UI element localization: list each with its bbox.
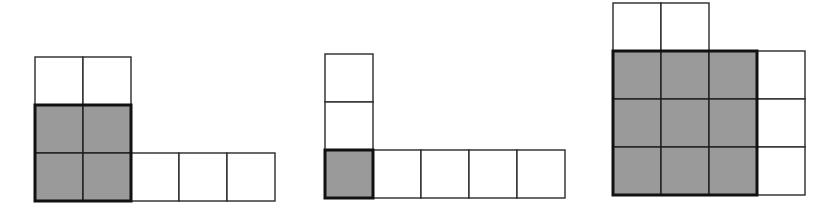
shaded-cell bbox=[709, 99, 757, 147]
shaded-cell bbox=[325, 150, 373, 198]
unshaded-cell bbox=[613, 3, 661, 51]
shaded-cell bbox=[661, 147, 709, 195]
shaded-cell bbox=[83, 105, 131, 153]
figure-2 bbox=[325, 54, 565, 198]
unshaded-cell bbox=[179, 153, 227, 201]
unshaded-cell bbox=[373, 150, 421, 198]
shaded-cell bbox=[83, 153, 131, 201]
shaded-cell bbox=[661, 51, 709, 99]
unshaded-cell bbox=[227, 153, 275, 201]
unshaded-cell bbox=[325, 102, 373, 150]
unshaded-cell bbox=[83, 57, 131, 105]
unshaded-cell bbox=[757, 147, 805, 195]
shaded-cell bbox=[613, 51, 661, 99]
unshaded-cell bbox=[757, 99, 805, 147]
unshaded-cell bbox=[469, 150, 517, 198]
unshaded-cell bbox=[757, 51, 805, 99]
shaded-cell bbox=[613, 147, 661, 195]
shaded-cell bbox=[709, 147, 757, 195]
shaded-cell bbox=[35, 105, 83, 153]
unshaded-cell bbox=[661, 3, 709, 51]
shaded-cell bbox=[661, 99, 709, 147]
shaded-cell bbox=[613, 99, 661, 147]
shaded-cell bbox=[709, 51, 757, 99]
unshaded-cell bbox=[517, 150, 565, 198]
square-pattern-diagram bbox=[0, 0, 832, 208]
unshaded-cell bbox=[35, 57, 83, 105]
unshaded-cell bbox=[325, 54, 373, 102]
shaded-cell bbox=[35, 153, 83, 201]
figure-1 bbox=[35, 57, 275, 201]
unshaded-cell bbox=[131, 153, 179, 201]
figure-3 bbox=[613, 3, 805, 195]
unshaded-cell bbox=[421, 150, 469, 198]
